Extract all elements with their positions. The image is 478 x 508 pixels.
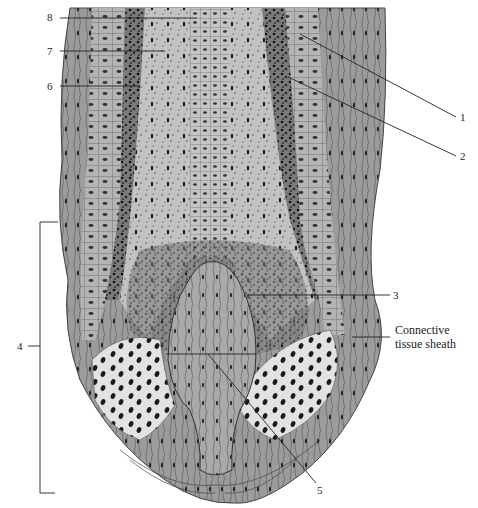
label-8: 8 [47,11,53,23]
label-2: 2 [460,150,466,162]
hair-follicle-diagram [0,0,478,508]
label-3: 3 [393,289,399,301]
label-7: 7 [47,45,53,57]
label-1: 1 [460,111,466,123]
label-6: 6 [47,80,53,92]
label-5: 5 [317,484,323,496]
label-connective-tissue-sheath: Connective tissue sheath [395,323,456,351]
bracket-4 [40,222,58,493]
label-4: 4 [17,340,23,352]
medulla [190,8,230,258]
label-connective-line2: tissue sheath [395,337,456,351]
label-connective-line1: Connective [395,323,456,337]
